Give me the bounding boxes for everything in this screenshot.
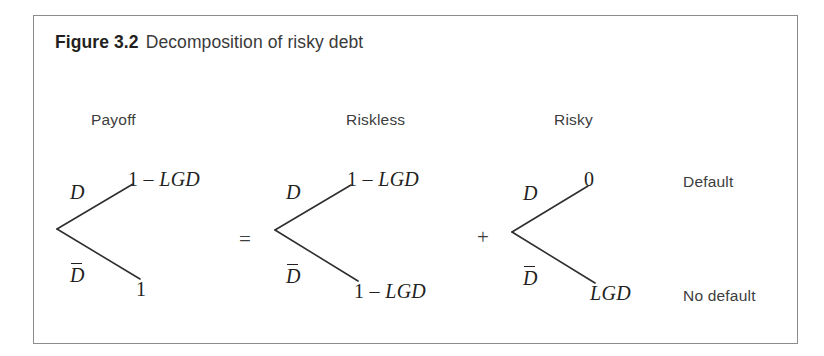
figure-root: Figure 3.2Decomposition of risky debt Pa… [0, 0, 824, 356]
payoff-tree-lower-branch-letter: D [70, 264, 84, 286]
riskless-tree-lower-payoff: 1 – LGD [354, 280, 426, 303]
riskless-tree-upper-payoff-symbol: LGD [378, 168, 419, 190]
riskless-tree-upper-payoff-prefix: 1 – [347, 168, 378, 190]
figure-caption-text: Decomposition of risky debt [146, 32, 364, 52]
figure-border-box: Figure 3.2Decomposition of risky debt Pa… [33, 15, 798, 344]
riskless-tree-lower-branch-label: D [286, 265, 300, 288]
figure-caption: Figure 3.2Decomposition of risky debt [55, 32, 363, 53]
payoff-tree-lower-branch-label: D [70, 264, 84, 287]
outcome-label-default: Default [683, 173, 734, 191]
plus-operator: + [477, 225, 489, 250]
risky-tree-upper-branch-label: D [523, 182, 538, 205]
column-header-payoff: Payoff [91, 111, 136, 129]
payoff-tree-lower-payoff: 1 [136, 278, 146, 301]
figure-caption-label: Figure 3.2 [55, 32, 139, 52]
payoff-tree-upper-payoff-symbol: LGD [159, 168, 200, 190]
payoff-tree-upper-payoff-prefix: 1 – [128, 168, 159, 190]
riskless-tree-upper-branch-label: D [286, 181, 301, 204]
risky-tree-upper-payoff: 0 [584, 168, 594, 191]
outcome-label-no-default: No default [683, 287, 756, 305]
payoff-tree-upper-branch-label: D [70, 181, 85, 204]
riskless-tree-lower-payoff-prefix: 1 – [354, 280, 385, 302]
risky-tree-lower-branch-letter: D [523, 267, 537, 289]
overbar [287, 264, 298, 265]
overbar [524, 266, 535, 267]
riskless-tree-upper-payoff: 1 – LGD [347, 168, 419, 191]
riskless-tree-lower-branch-letter: D [286, 265, 300, 287]
riskless-tree-lower-payoff-symbol: LGD [385, 280, 426, 302]
column-header-risky: Risky [554, 111, 593, 129]
equals-operator: = [239, 227, 251, 252]
column-header-riskless: Riskless [346, 111, 405, 129]
payoff-tree-upper-payoff: 1 – LGD [128, 168, 200, 191]
risky-tree-lower-payoff: LGD [590, 282, 631, 305]
risky-tree-lower-branch-label: D [523, 267, 537, 290]
overbar [71, 263, 82, 264]
